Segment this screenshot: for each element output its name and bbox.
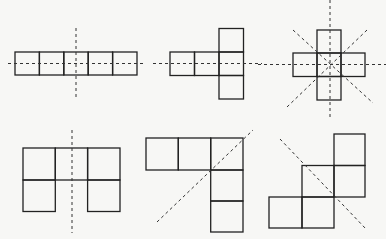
- symmetry-axis: [287, 30, 367, 107]
- unit-square: [317, 77, 341, 101]
- symmetry-axis: [280, 139, 366, 229]
- unit-square: [302, 166, 334, 198]
- figure-6: [269, 134, 366, 229]
- figure-4: [23, 130, 120, 233]
- unit-square: [334, 166, 365, 198]
- unit-square: [146, 138, 178, 170]
- unit-square: [219, 76, 244, 100]
- figure-3: [258, 0, 386, 119]
- unit-square: [219, 29, 244, 53]
- unit-square: [55, 148, 87, 180]
- figure-2: [153, 29, 262, 100]
- unit-square: [88, 148, 120, 180]
- symmetry-axis: [293, 30, 373, 103]
- unit-square: [23, 180, 55, 212]
- unit-square: [269, 197, 302, 228]
- unit-square: [211, 138, 243, 170]
- symmetry-axis: [157, 130, 253, 222]
- unit-square: [23, 148, 55, 180]
- unit-square: [317, 30, 341, 53]
- unit-square: [302, 197, 334, 228]
- unit-square: [88, 180, 120, 212]
- unit-square: [178, 138, 210, 170]
- unit-square: [211, 170, 243, 201]
- figure-5: [146, 130, 253, 232]
- figure-1: [8, 28, 145, 97]
- unit-square: [211, 201, 243, 232]
- symmetry-diagram: [0, 0, 386, 239]
- unit-square: [334, 134, 365, 166]
